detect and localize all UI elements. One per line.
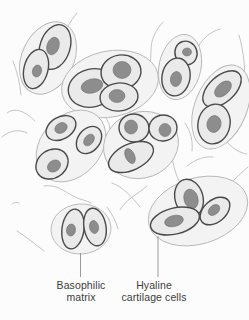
- hyaline-cartilage-diagram: Basophilic matrix Hyaline cartilage cell…: [0, 0, 249, 320]
- cell-nucleus: [113, 62, 131, 79]
- matrix-line: [185, 123, 192, 151]
- cell-nucleus: [183, 48, 192, 56]
- matrix-line: [120, 186, 147, 210]
- hyaline-cartilage-cells-label-line2: cartilage cells: [94, 291, 214, 303]
- matrix-line: [12, 202, 19, 204]
- matrix-line: [187, 157, 213, 166]
- matrix-line: [7, 110, 35, 121]
- matrix-line: [44, 186, 91, 203]
- cell-group-7: [49, 202, 112, 256]
- cell-nucleus: [125, 120, 138, 134]
- cell-group-8: [140, 165, 249, 258]
- matrix-line: [17, 231, 44, 251]
- cell-nucleus: [109, 90, 125, 103]
- matrix-line: [198, 29, 220, 47]
- matrix-line: [232, 167, 248, 182]
- matrix-line: [227, 142, 247, 154]
- cell-nucleus: [159, 124, 171, 137]
- matrix-line: [2, 131, 27, 137]
- hyaline-cartilage-cells-label: Hyaline cartilage cells: [94, 279, 214, 303]
- cartilage-illustration: [0, 0, 249, 320]
- hyaline-cartilage-cells-label-line1: Hyaline: [94, 279, 214, 291]
